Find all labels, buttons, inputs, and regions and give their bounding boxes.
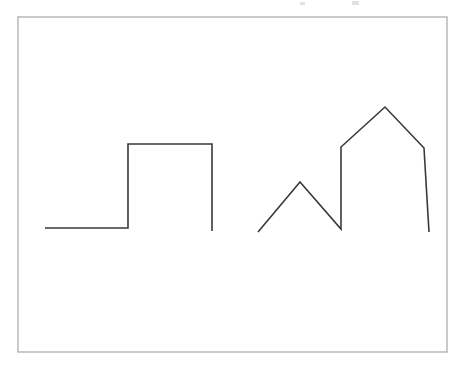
drawing-canvas — [0, 0, 464, 374]
artifact-speck-2 — [352, 1, 359, 5]
vector-drawing-surface — [0, 0, 464, 374]
shapes-group — [45, 107, 429, 232]
border-rectangle — [18, 17, 447, 352]
artifact-speck-1 — [300, 2, 305, 5]
zigzag-diamond-polyline — [258, 107, 429, 232]
step-polyline — [45, 144, 212, 231]
